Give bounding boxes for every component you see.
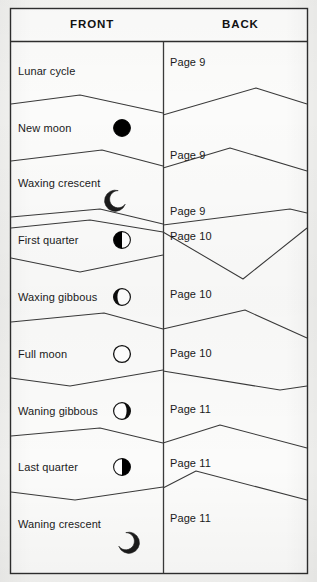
front-term-new-moon: New moon (18, 122, 71, 134)
full-moon-icon (114, 346, 131, 363)
front-term-full-moon: Full moon (18, 348, 67, 360)
column-header-front: FRONT (70, 18, 114, 30)
new-moon-icon (114, 120, 131, 137)
first-quarter-moon-icon (114, 232, 131, 249)
waxing-gibbous-moon-icon (114, 289, 131, 306)
front-term-lunar-cycle: Lunar cycle (18, 65, 75, 77)
back-page-ref-5: Page 10 (170, 288, 212, 300)
flashcard-sheet-page: FRONT BACK Lunar cycle New moon Waxing c… (0, 0, 317, 582)
front-term-last-quarter: Last quarter (18, 461, 78, 473)
last-quarter-moon-icon (114, 459, 131, 476)
column-header-back: BACK (222, 18, 259, 30)
back-page-ref-6: Page 10 (170, 347, 212, 359)
back-page-ref-9: Page 11 (170, 512, 211, 524)
front-term-waning-gibbous: Waning gibbous (18, 405, 98, 417)
waning-gibbous-moon-icon (114, 403, 131, 420)
front-term-first-quarter: First quarter (18, 234, 79, 246)
back-page-ref-4: Page 10 (170, 230, 212, 242)
back-page-ref-3: Page 9 (170, 205, 205, 217)
back-page-ref-1: Page 9 (170, 56, 205, 68)
front-term-waxing-gibbous: Waxing gibbous (18, 291, 97, 303)
front-term-waning-crescent: Waning crescent (18, 518, 101, 530)
back-page-ref-2: Page 9 (170, 149, 205, 161)
back-page-ref-7: Page 11 (170, 403, 211, 415)
back-page-ref-8: Page 11 (170, 457, 211, 469)
front-term-waxing-crescent: Waxing crescent (18, 177, 100, 189)
